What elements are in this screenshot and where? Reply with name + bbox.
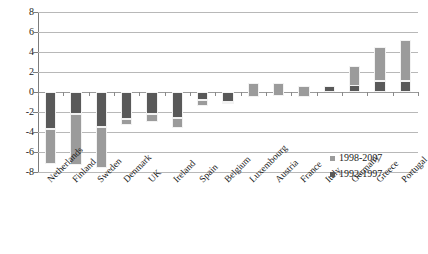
bar-segment-1998-2007 xyxy=(121,119,133,125)
bar-group xyxy=(96,12,108,172)
bar-group xyxy=(45,12,57,172)
bar-segment-1992-1997 xyxy=(121,92,133,119)
x-tick xyxy=(215,92,216,96)
bar-group xyxy=(172,12,184,172)
x-tick xyxy=(190,92,191,96)
bar-group xyxy=(248,12,260,172)
bar-segment-1998-2007 xyxy=(349,66,361,86)
bar-segment-1998-2007 xyxy=(374,47,386,81)
bar-segment-1998-2007 xyxy=(197,100,209,106)
bar-segment-1992-1997 xyxy=(222,92,234,102)
bars-layer xyxy=(38,12,418,172)
bar-segment-1998-2007 xyxy=(400,40,412,81)
y-axis-tick-label: -2 xyxy=(12,107,34,117)
y-axis-tick-label: 4 xyxy=(12,47,34,57)
x-tick xyxy=(89,92,90,96)
y-axis-tick-label: 8 xyxy=(12,7,34,17)
y-axis-tick-label: 2 xyxy=(12,67,34,77)
bar-segment-1992-1997 xyxy=(146,92,158,114)
bar-group xyxy=(146,12,158,172)
x-axis-category-labels: NetherlandsFinlandSwedenDenmarkUKIreland… xyxy=(38,174,418,254)
y-axis-tick-label: -4 xyxy=(12,127,34,137)
legend-swatch-icon xyxy=(330,156,335,161)
legend-label: 1992-1997 xyxy=(339,169,382,179)
bar-segment-1998-2007 xyxy=(146,114,158,122)
bar-segment-1992-1997 xyxy=(400,81,412,92)
bar-group xyxy=(374,12,386,172)
bar-segment-1998-2007 xyxy=(273,83,285,96)
bar-segment-1992-1997 xyxy=(324,86,336,92)
bar-group xyxy=(324,12,336,172)
bar-segment-1992-1997 xyxy=(197,92,209,100)
x-tick xyxy=(317,92,318,96)
y-axis-tick-label: 0 xyxy=(12,87,34,97)
bar-segment-1992-1997 xyxy=(374,81,386,92)
bar-group xyxy=(400,12,412,172)
bar-group xyxy=(197,12,209,172)
legend-label: 1998-2007 xyxy=(339,153,382,163)
x-tick xyxy=(291,92,292,96)
x-tick xyxy=(63,92,64,96)
bar-segment-1992-1997 xyxy=(172,92,184,118)
bar-group xyxy=(222,12,234,172)
x-tick xyxy=(165,92,166,96)
y-axis-tick-label: -6 xyxy=(12,147,34,157)
bar-segment-1998-2007 xyxy=(45,129,57,164)
bar-segment-1992-1997 xyxy=(70,92,82,114)
x-tick xyxy=(114,92,115,96)
legend-item: 1992-1997 xyxy=(330,166,424,182)
x-tick xyxy=(241,92,242,96)
bar-segment-1998-2007 xyxy=(222,102,234,104)
bar-chart: 86420-2-4-6-8 NetherlandsFinlandSwedenDe… xyxy=(0,0,428,254)
bar-segment-1998-2007 xyxy=(298,86,310,97)
y-axis-tick-label: 6 xyxy=(12,27,34,37)
bar-segment-1998-2007 xyxy=(96,127,108,168)
bar-group xyxy=(298,12,310,172)
x-tick xyxy=(342,92,343,96)
x-tick xyxy=(418,92,419,96)
bar-segment-1998-2007 xyxy=(172,118,184,128)
x-tick xyxy=(266,92,267,96)
plot-area xyxy=(38,12,418,172)
bar-segment-1998-2007 xyxy=(248,83,260,97)
bar-group xyxy=(349,12,361,172)
y-axis-tick-label: -8 xyxy=(12,167,34,177)
bar-segment-1992-1997 xyxy=(96,92,108,127)
bar-segment-1992-1997 xyxy=(45,92,57,129)
legend-item: 1998-2007 xyxy=(330,150,424,166)
y-tick--8 xyxy=(33,172,38,173)
x-tick xyxy=(367,92,368,96)
chart-legend: 1998-20071992-1997 xyxy=(330,150,424,182)
x-tick xyxy=(139,92,140,96)
legend-swatch-icon xyxy=(330,172,335,177)
bar-group xyxy=(121,12,133,172)
x-tick xyxy=(393,92,394,96)
x-tick xyxy=(38,92,39,96)
